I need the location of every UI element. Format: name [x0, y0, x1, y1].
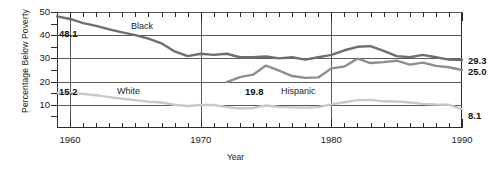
y-minor-tick-25	[51, 70, 57, 71]
y-tick-label-40: 40	[28, 30, 50, 40]
x-tick-label-1960: 1960	[59, 134, 80, 145]
hispanic-series-label: Hispanic	[281, 86, 316, 96]
white-series-label: White	[117, 86, 140, 96]
black-end-value: 29.3	[468, 55, 487, 66]
y-minor-tick-40	[51, 35, 57, 36]
y-minor-tick-10	[51, 105, 57, 106]
x-tick-top-1990	[462, 12, 463, 21]
black-series-label: Black	[131, 21, 153, 31]
y-minor-tick-15	[51, 93, 57, 94]
y-tick-label-30: 30	[28, 53, 50, 63]
black-start-value: 48.1	[59, 28, 78, 39]
y-minor-tick-35	[51, 47, 57, 48]
hispanic-start-value: 19.8	[245, 86, 264, 97]
x-axis-title-text: Year	[227, 152, 244, 162]
series-line-black	[57, 16, 462, 60]
x-tick-label-1970: 1970	[190, 134, 211, 145]
x-tick-label-1980: 1980	[321, 134, 342, 145]
y-tick-label-10: 10	[28, 100, 50, 110]
y-minor-tick-30	[51, 58, 57, 59]
y-minor-tick-50	[51, 12, 57, 13]
series-lines	[57, 12, 462, 128]
y-tick-label-20: 20	[28, 77, 50, 87]
x-tick-bottom-1990	[462, 119, 463, 128]
series-line-hispanic	[227, 59, 462, 82]
x-tick-label-1990: 1990	[451, 134, 472, 145]
hispanic-end-value: 25.0	[468, 66, 487, 77]
y-tick-label-50: 50	[28, 7, 50, 17]
poverty-rate-line-chart: Percentage Below Poverty 1020304050 1960…	[0, 0, 503, 181]
x-axis-title: Year	[0, 152, 503, 162]
white-end-value: 8.1	[468, 110, 481, 121]
y-minor-tick-45	[51, 24, 57, 25]
plot-area	[57, 12, 462, 128]
y-minor-tick-20	[51, 82, 57, 83]
y-minor-tick-5	[51, 116, 57, 117]
white-start-value: 15.2	[59, 86, 78, 97]
